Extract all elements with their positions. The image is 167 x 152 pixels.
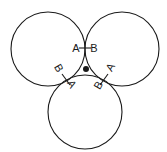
tangent-circles-diagram: ABABAB xyxy=(0,0,167,152)
label-top-a: A xyxy=(72,42,80,54)
label-right-a: A xyxy=(103,60,117,73)
label-left-b: B xyxy=(52,62,66,74)
circle-bottom xyxy=(48,75,122,149)
label-top-b: B xyxy=(90,42,97,54)
circles-group xyxy=(11,12,159,149)
center-dot xyxy=(83,66,89,72)
